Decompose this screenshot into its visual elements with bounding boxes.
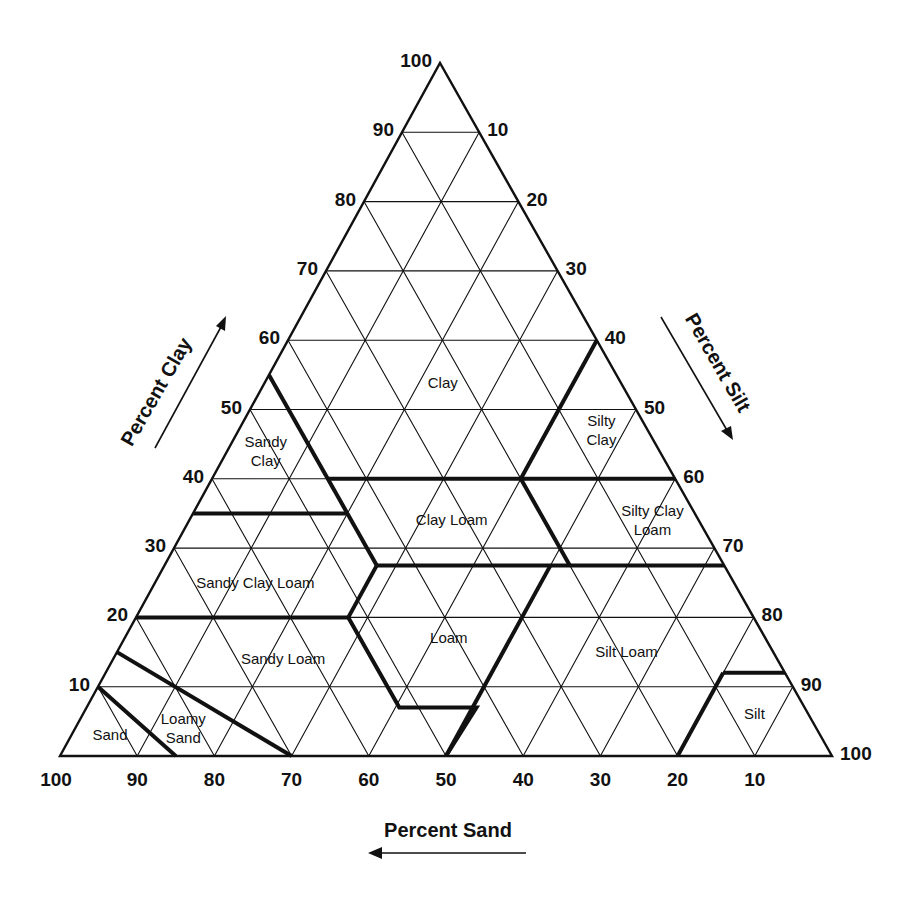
clay-tick-label: 90 — [373, 119, 394, 140]
region-label-clay: Clay — [428, 374, 459, 391]
sand-axis-title: Percent Sand — [384, 819, 512, 841]
sand-tick-label: 80 — [204, 769, 225, 790]
clay-tick-label: 30 — [145, 535, 166, 556]
region-label-loamy-sand: Sand — [166, 729, 201, 746]
silt-tick-label: 70 — [722, 535, 743, 556]
sand-tick-label: 70 — [281, 769, 302, 790]
sand-arrow-icon — [368, 847, 526, 859]
silt-tick-label: 10 — [487, 119, 508, 140]
region-label-silty-clay: Clay — [586, 431, 617, 448]
clay-tick-label: 80 — [335, 189, 356, 210]
region-label-sandy-clay: Sandy — [245, 433, 288, 450]
region-label-silty-clay-loam: Silty Clay — [621, 502, 684, 519]
clay-axis-title: Percent Clay — [116, 333, 196, 450]
silt-axis-title: Percent Silt — [681, 309, 755, 416]
silt-tick-label: 40 — [605, 327, 626, 348]
silt-tick-label: 90 — [801, 674, 822, 695]
sand-tick-label: 40 — [513, 769, 534, 790]
region-label-clay-loam: Clay Loam — [416, 511, 488, 528]
region-label-sandy-loam: Sandy Loam — [241, 650, 325, 667]
region-label-sandy-clay: Clay — [251, 452, 282, 469]
sand-tick-label: 60 — [358, 769, 379, 790]
silt-axis-label: Percent Silt — [681, 309, 755, 416]
silt-tick-label: 100 — [840, 743, 872, 764]
clay-tick-label: 50 — [221, 397, 242, 418]
clay-tick-label: 100 — [400, 50, 432, 71]
ternary-plot: 1020304050607080901001020304050607080901… — [0, 0, 922, 902]
sand-tick-label: 50 — [435, 769, 456, 790]
silt-tick-label: 60 — [683, 466, 704, 487]
region-label-loam: Loam — [430, 629, 468, 646]
grid-line-sand — [98, 687, 137, 756]
region-label-silt-loam: Silt Loam — [595, 643, 658, 660]
class-boundary — [347, 513, 376, 565]
region-label-sand: Sand — [92, 726, 127, 743]
grid-lines — [98, 132, 793, 756]
silt-tick-label: 30 — [566, 258, 587, 279]
grid-line-sand — [402, 132, 755, 756]
class-boundary — [446, 565, 551, 756]
clay-axis-label: Percent Clay — [116, 333, 196, 450]
region-label-silty-clay: Silty — [587, 412, 616, 429]
class-boundary — [521, 479, 570, 566]
silt-tick-label: 20 — [526, 189, 547, 210]
silt-tick-label: 80 — [762, 604, 783, 625]
class-boundary — [678, 673, 724, 756]
region-label-sandy-clay-loam: Sandy Clay Loam — [196, 574, 314, 591]
sand-tick-label: 100 — [40, 769, 72, 790]
texture-class-labels: ClaySandyClaySiltyClayClay LoamSilty Cla… — [92, 374, 765, 746]
clay-tick-label: 60 — [259, 327, 280, 348]
class-boundary — [117, 652, 292, 756]
sand-tick-label: 20 — [667, 769, 688, 790]
region-label-silty-clay-loam: Loam — [634, 521, 672, 538]
region-label-silt: Silt — [744, 705, 766, 722]
region-label-loamy-sand: Loamy — [161, 710, 207, 727]
soil-texture-triangle: 1020304050607080901001020304050607080901… — [0, 0, 922, 902]
sand-tick-label: 30 — [590, 769, 611, 790]
clay-tick-label: 40 — [183, 466, 204, 487]
sand-tick-label: 10 — [744, 769, 765, 790]
clay-tick-label: 70 — [297, 258, 318, 279]
silt-tick-label: 50 — [644, 397, 665, 418]
clay-tick-label: 10 — [69, 674, 90, 695]
clay-tick-label: 20 — [107, 604, 128, 625]
sand-tick-label: 90 — [127, 769, 148, 790]
